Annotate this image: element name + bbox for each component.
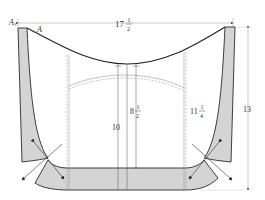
- neckline-curve: [27, 27, 225, 64]
- center-height-label: 10: [112, 123, 120, 132]
- svg-text:17: 17: [115, 19, 125, 29]
- point-a1-sub: 1: [14, 22, 17, 27]
- side-height-label: 11 1 4: [190, 104, 205, 119]
- svg-text:8: 8: [130, 107, 134, 116]
- inner-arch: [69, 75, 184, 91]
- svg-text:1: 1: [201, 104, 204, 110]
- left-side-panel: [18, 28, 48, 162]
- svg-text:2: 2: [136, 113, 139, 119]
- total-height-label: 13: [243, 105, 251, 114]
- svg-text:1: 1: [128, 17, 131, 23]
- point-a-label: A: [36, 25, 42, 34]
- svg-text:1: 1: [137, 104, 140, 110]
- inner-height-label: 8 1 2: [130, 104, 141, 119]
- svg-text:4: 4: [200, 113, 203, 119]
- right-side-panel: [204, 27, 235, 162]
- bottom-band: [35, 160, 218, 190]
- width-dimension: [18, 18, 233, 28]
- svg-text:2: 2: [127, 26, 130, 32]
- width-label: 17 1 2: [115, 17, 132, 32]
- sewing-pattern-diagram: A 1 A 17 1 2 10 8 1 2 11 1 4 13: [0, 0, 265, 200]
- svg-text:11: 11: [190, 107, 198, 116]
